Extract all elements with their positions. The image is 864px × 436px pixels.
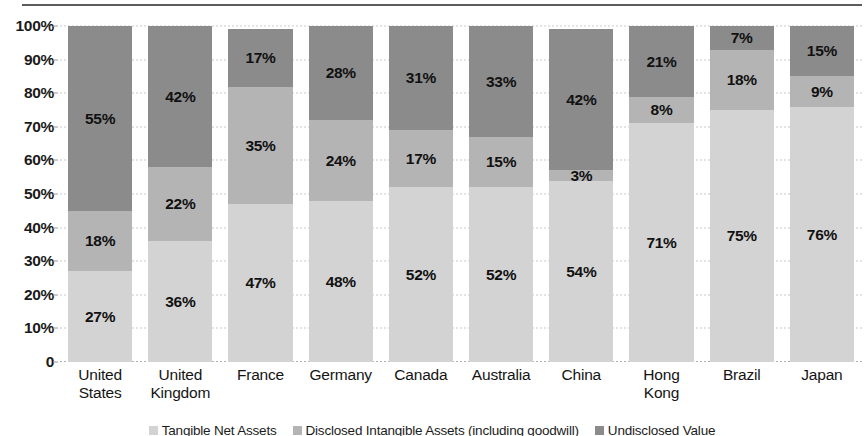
bar-segment[interactable]: 3% [549, 170, 613, 180]
legend-label: Tangible Net Assets [162, 424, 277, 436]
legend-label: Disclosed Intangible Assets (including g… [306, 424, 579, 436]
bar-segment-value-label: 71% [646, 235, 676, 251]
x-axis-category-label: China [541, 366, 621, 384]
x-axis-category-label: Australia [461, 366, 541, 384]
bar-group: 27%18%55%36%22%42%47%35%17%48%24%28%52%1… [60, 26, 862, 362]
bar-segment-value-label: 22% [165, 196, 195, 212]
x-axis-label-line-1: Australia [472, 366, 531, 383]
y-axis-tick-label: 50% [24, 185, 54, 203]
x-axis-label-line-1: Hong [643, 366, 679, 383]
bar-segment-value-label: 17% [406, 151, 436, 167]
y-axis-tick-mark [53, 294, 58, 295]
bar-segment[interactable]: 17% [389, 130, 453, 187]
bar-segment[interactable]: 21% [629, 26, 693, 97]
bar-segment-value-label: 15% [807, 43, 837, 59]
bar-segment[interactable]: 54% [549, 181, 613, 362]
bar-segment-value-label: 47% [245, 275, 275, 291]
bar-segment[interactable]: 7% [710, 26, 774, 50]
x-axis-category-label: Canada [381, 366, 461, 384]
legend-color-swatch [293, 426, 302, 435]
bar-segment[interactable]: 17% [228, 29, 292, 86]
bar-segment[interactable]: 18% [68, 211, 132, 271]
bar-segment-value-label: 7% [731, 30, 753, 46]
bar-segment[interactable]: 27% [68, 271, 132, 362]
y-axis-tick-mark [53, 26, 58, 27]
bar-segment[interactable]: 76% [790, 107, 854, 362]
top-divider-rule [22, 4, 862, 6]
bar-segment[interactable]: 28% [309, 26, 373, 120]
bar-segment[interactable]: 52% [469, 187, 533, 362]
bar-segment[interactable]: 22% [148, 167, 212, 241]
legend-color-swatch [149, 426, 158, 435]
bar-segment-value-label: 54% [566, 264, 596, 280]
bar-stack-hong-kong[interactable]: 71%8%21% [629, 26, 693, 362]
chart-legend: Tangible Net AssetsDisclosed Intangible … [0, 424, 864, 436]
bar-segment[interactable]: 15% [790, 26, 854, 76]
x-axis-category-label: Brazil [702, 366, 782, 384]
bar-segment[interactable]: 35% [228, 87, 292, 205]
bar-stack-united-kingdom[interactable]: 36%22%42% [148, 26, 212, 362]
bar-segment[interactable]: 42% [148, 26, 212, 167]
bar-segment-value-label: 75% [727, 228, 757, 244]
bar-segment-value-label: 76% [807, 227, 837, 243]
bar-segment[interactable]: 52% [389, 187, 453, 362]
y-axis-tick-mark [53, 126, 58, 127]
x-axis-label-line-1: Brazil [723, 366, 761, 383]
x-axis-label-line-2: Kingdom [140, 384, 220, 402]
bar-segment-value-label: 15% [486, 154, 516, 170]
bar-segment[interactable]: 8% [629, 97, 693, 124]
stacked-bar-chart: 010%20%30%40%50%60%70%80%90%100% 27%18%5… [0, 26, 864, 362]
bar-segment[interactable]: 48% [309, 201, 373, 362]
y-axis-tick-label: 40% [24, 219, 54, 237]
bar-segment-value-label: 9% [811, 84, 833, 100]
y-axis-tick-label: 100% [16, 17, 54, 35]
y-axis-tick-mark [53, 160, 58, 161]
bar-segment-value-label: 8% [651, 102, 673, 118]
bar-segment[interactable]: 9% [790, 76, 854, 106]
bar-segment-value-label: 18% [727, 72, 757, 88]
x-axis-category-label: Germany [301, 366, 381, 384]
bar-stack-germany[interactable]: 48%24%28% [309, 26, 373, 362]
legend-item[interactable]: Undisclosed Value [595, 424, 715, 436]
bar-segment[interactable]: 33% [469, 26, 533, 137]
bar-segment-value-label: 52% [406, 267, 436, 283]
bar-segment-value-label: 52% [486, 267, 516, 283]
y-axis-tick-label: 10% [24, 319, 54, 337]
x-axis-label-line-1: Japan [801, 366, 842, 383]
bar-segment[interactable]: 75% [710, 110, 774, 362]
chart-page: 010%20%30%40%50%60%70%80%90%100% 27%18%5… [0, 0, 864, 436]
bar-stack-china[interactable]: 54%3%42% [549, 26, 613, 362]
x-axis-category-label: UnitedStates [60, 366, 140, 402]
bar-stack-australia[interactable]: 52%15%33% [469, 26, 533, 362]
bar-segment[interactable]: 31% [389, 26, 453, 130]
bar-stack-canada[interactable]: 52%17%31% [389, 26, 453, 362]
bar-segment-value-label: 55% [85, 111, 115, 127]
y-axis-tick-mark [53, 362, 58, 363]
legend-item[interactable]: Disclosed Intangible Assets (including g… [293, 424, 579, 436]
x-axis-category-label: UnitedKingdom [140, 366, 220, 402]
bar-stack-united-states[interactable]: 27%18%55% [68, 26, 132, 362]
bar-segment-value-label: 35% [245, 138, 275, 154]
bar-segment-value-label: 33% [486, 74, 516, 90]
bar-segment[interactable]: 42% [549, 29, 613, 170]
legend-item[interactable]: Tangible Net Assets [149, 424, 277, 436]
bar-stack-japan[interactable]: 76%9%15% [790, 26, 854, 362]
bar-segment[interactable]: 55% [68, 26, 132, 211]
bar-segment-value-label: 42% [165, 89, 195, 105]
bar-segment[interactable]: 24% [309, 120, 373, 201]
x-axis-label-line-1: Germany [310, 366, 372, 383]
bar-stack-france[interactable]: 47%35%17% [228, 26, 292, 362]
bar-segment[interactable]: 18% [710, 50, 774, 110]
y-axis-tick-label: 30% [24, 252, 54, 270]
bar-segment[interactable]: 36% [148, 241, 212, 362]
bar-segment[interactable]: 71% [629, 123, 693, 362]
bar-stack-brazil[interactable]: 75%18%7% [710, 26, 774, 362]
bar-segment[interactable]: 15% [469, 137, 533, 187]
plot-area: 27%18%55%36%22%42%47%35%17%48%24%28%52%1… [60, 26, 862, 362]
bar-segment-value-label: 21% [646, 54, 676, 70]
x-axis-label-line-1: United [158, 366, 202, 383]
bar-segment[interactable]: 47% [228, 204, 292, 362]
y-axis-tick-mark [53, 328, 58, 329]
y-axis-tick-mark [53, 93, 58, 94]
y-axis-tick-mark [53, 59, 58, 60]
